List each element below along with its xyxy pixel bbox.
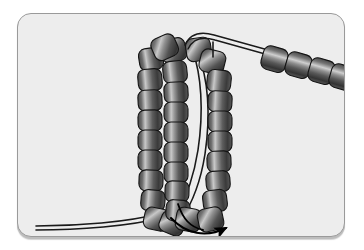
bead [165,181,190,203]
figure-frame: Needle and thread adding a new bead colu… [17,13,345,237]
bead [164,122,188,143]
bead [207,90,232,112]
bead-strand-incoming [259,44,344,98]
bead [164,162,188,183]
bead [207,151,232,173]
bead-column-right [185,36,233,233]
bead [208,111,232,132]
bead [162,60,188,84]
figure-title: Beadwork ladder stitch diagram [0,0,1,1]
bead [164,102,188,123]
bead [137,89,162,111]
bead [138,130,162,151]
bead [163,81,188,103]
bead [137,68,163,92]
beadwork-illustration [18,14,344,236]
bead [138,110,162,131]
bead [164,142,188,163]
bead [139,170,164,192]
bead [206,69,232,93]
bead [138,150,162,171]
figure-stage: Needle and thread adding a new bead colu… [0,0,364,250]
bead [208,131,232,152]
